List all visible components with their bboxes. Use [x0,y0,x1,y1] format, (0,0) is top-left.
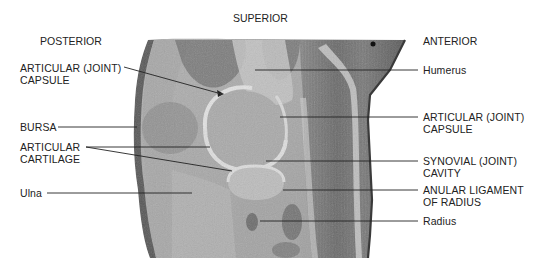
label-line: CAVITY [423,167,517,179]
label-line: OF RADIUS [423,196,524,208]
label-humerus: Humerus [423,64,466,76]
label-line: Ulna [20,187,42,199]
label-bursa: BURSA [20,121,57,133]
label-line: Radius [423,215,456,227]
label-line: CAPSULE [423,123,524,135]
label-articular-capsule-posterior: ARTICULAR (JOINT) CAPSULE [20,62,121,86]
elbow-sagittal-section-figure: SUPERIOR POSTERIOR ANTERIOR ARTICULAR (J… [0,0,534,272]
label-articular-capsule-anterior: ARTICULAR (JOINT) CAPSULE [423,111,524,135]
label-line: ANULAR LIGAMENT [423,184,524,196]
orientation-posterior: POSTERIOR [40,35,102,47]
label-line: CARTILAGE [20,153,80,165]
orientation-anterior: ANTERIOR [423,35,477,47]
label-line: CAPSULE [20,74,121,86]
label-articular-cartilage: ARTICULAR CARTILAGE [20,141,80,165]
label-line: SYNOVIAL (JOINT) [423,155,517,167]
label-radius: Radius [423,215,456,227]
label-anular-ligament: ANULAR LIGAMENT OF RADIUS [423,184,524,208]
label-line: ARTICULAR (JOINT) [423,111,524,123]
label-ulna: Ulna [20,187,42,199]
label-line: ARTICULAR (JOINT) [20,62,121,74]
label-synovial-cavity: SYNOVIAL (JOINT) CAVITY [423,155,517,179]
label-line: Humerus [423,64,466,76]
label-line: BURSA [20,121,57,133]
label-line: ARTICULAR [20,141,80,153]
orientation-superior: SUPERIOR [233,12,288,24]
